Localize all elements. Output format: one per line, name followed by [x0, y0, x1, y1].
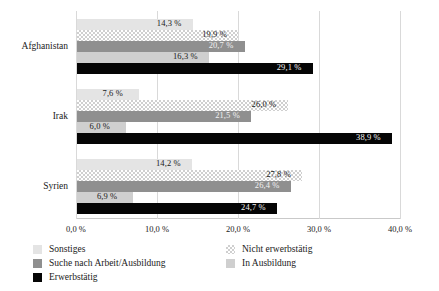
- x-tick-label: 40,0 %: [388, 224, 412, 234]
- bar-value-label: 26,0 %: [252, 99, 277, 110]
- bar-row: 38,9 %: [77, 133, 400, 144]
- bar-value-label: 26,4 %: [255, 180, 280, 191]
- bar-value-label: 14,3 %: [157, 18, 182, 29]
- bar-value-label: 27,8 %: [266, 169, 291, 180]
- bar-value-label: 16,3 %: [173, 51, 198, 62]
- legend-label: Erwerbstätig: [49, 272, 98, 283]
- bar-value-label: 19,9 %: [202, 29, 227, 40]
- bar-group-irak: 7,6 %26,0 %21,5 %6,0 %38,9 %: [77, 89, 400, 144]
- bar-value-label: 29,1 %: [277, 62, 302, 73]
- bar-group-afghanistan: 14,3 %19,9 %20,7 %16,3 %29,1 %: [77, 19, 400, 74]
- legend-item-nicht-erwerbstaetig[interactable]: Nicht erwerbstätig: [226, 243, 312, 256]
- legend-label: Sonstiges: [49, 244, 85, 255]
- bar-erwerbstaetig-irak[interactable]: [77, 133, 392, 144]
- bar-value-label: 20,7 %: [209, 40, 234, 51]
- bar-value-label: 38,9 %: [356, 132, 381, 143]
- category-label-syrien: Syrien: [43, 181, 68, 191]
- legend-swatch-icon: [33, 273, 42, 282]
- bar-value-label: 6,0 %: [90, 121, 110, 132]
- bar-row: 19,9 %: [77, 30, 400, 41]
- x-tick-label: 10,0 %: [145, 224, 169, 234]
- bar-row: 14,3 %: [77, 19, 400, 30]
- bar-row: 21,5 %: [77, 111, 400, 122]
- legend-column-right: Nicht erwerbstätigIn Ausbildung: [226, 243, 312, 271]
- bar-row: 6,0 %: [77, 122, 400, 133]
- legend-swatch-icon: [226, 245, 235, 254]
- legend-item-sonstiges[interactable]: Sonstiges: [33, 243, 166, 256]
- plot-area: 14,3 %19,9 %20,7 %16,3 %29,1 %7,6 %26,0 …: [76, 11, 400, 219]
- category-axis-labels: AfghanistanIrakSyrien: [0, 11, 72, 219]
- bar-value-label: 14,2 %: [156, 158, 181, 169]
- bar-row: 7,6 %: [77, 89, 400, 100]
- bar-value-label: 24,7 %: [241, 202, 266, 213]
- gridline: [400, 11, 401, 219]
- bar-row: 24,7 %: [77, 203, 400, 214]
- legend-item-suche-nach-arbeit-ausbildung[interactable]: Suche nach Arbeit/Ausbildung: [33, 257, 166, 270]
- legend-label: Suche nach Arbeit/Ausbildung: [49, 258, 166, 269]
- chart-legend: SonstigesSuche nach Arbeit/AusbildungErw…: [33, 243, 433, 287]
- x-tick-label: 0,0 %: [66, 224, 86, 234]
- legend-swatch-icon: [33, 245, 42, 254]
- legend-column-left: SonstigesSuche nach Arbeit/AusbildungErw…: [33, 243, 166, 285]
- bar-row: 29,1 %: [77, 63, 400, 74]
- legend-swatch-icon: [226, 259, 235, 268]
- bar-value-label: 6,9 %: [97, 191, 117, 202]
- bar-value-label: 21,5 %: [215, 110, 240, 121]
- bar-row: 6,9 %: [77, 192, 400, 203]
- legend-item-in-ausbildung[interactable]: In Ausbildung: [226, 257, 312, 270]
- x-axis-tick-labels: 0,0 %10,0 %20,0 %30,0 %40,0 %: [76, 224, 400, 238]
- bar-chart: AfghanistanIrakSyrien 14,3 %19,9 %20,7 %…: [0, 0, 439, 291]
- category-label-afghanistan: Afghanistan: [22, 41, 68, 51]
- legend-label: Nicht erwerbstätig: [242, 244, 312, 255]
- bar-row: 26,4 %: [77, 181, 400, 192]
- bar-row: 20,7 %: [77, 41, 400, 52]
- bar-value-label: 7,6 %: [103, 88, 123, 99]
- x-tick-label: 20,0 %: [226, 224, 250, 234]
- legend-label: In Ausbildung: [242, 258, 296, 269]
- bar-row: 14,2 %: [77, 159, 400, 170]
- legend-swatch-icon: [33, 259, 42, 268]
- bar-row: 27,8 %: [77, 170, 400, 181]
- bar-row: 16,3 %: [77, 52, 400, 63]
- category-label-irak: Irak: [53, 111, 68, 121]
- legend-item-erwerbstaetig[interactable]: Erwerbstätig: [33, 271, 166, 284]
- x-tick-label: 30,0 %: [307, 224, 331, 234]
- bar-group-syrien: 14,2 %27,8 %26,4 %6,9 %24,7 %: [77, 159, 400, 214]
